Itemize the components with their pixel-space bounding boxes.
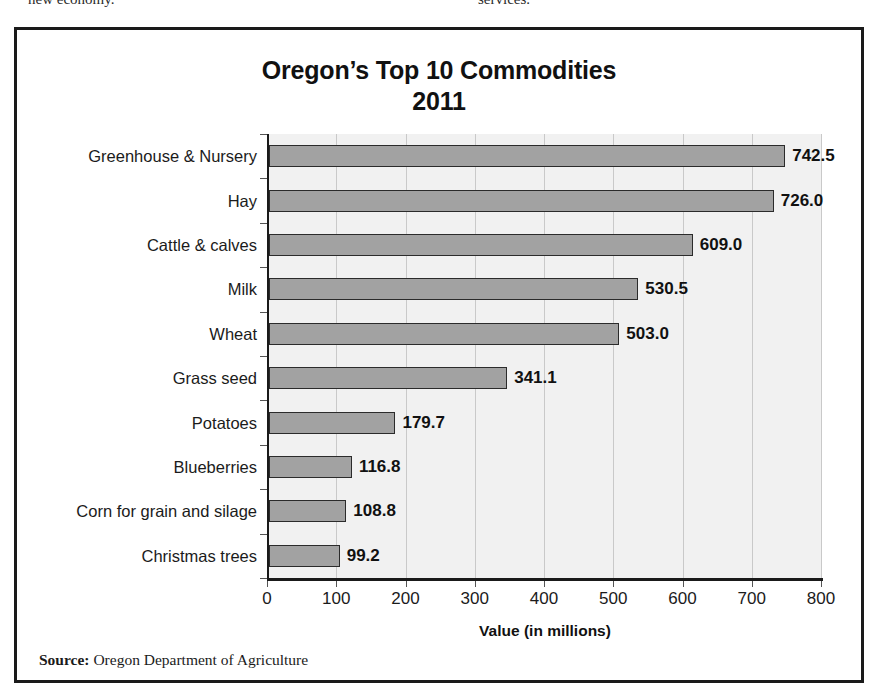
page-text-left-fragment: new economy. [28,0,115,8]
bar-value-label: 179.7 [402,413,445,433]
bar-value-label: 503.0 [626,324,669,344]
x-tick-label-600: 600 [668,589,696,609]
x-axis-line [267,578,823,581]
x-axis-title: Value (in millions) [267,622,823,640]
x-tick-800 [821,581,822,587]
x-tick-100 [336,581,337,587]
bar-row[interactable]: 108.8 [269,489,396,533]
category-label: Blueberries [174,458,257,477]
x-tick-label-700: 700 [738,589,766,609]
x-tick-label-200: 200 [391,589,419,609]
y-tick-5 [260,356,267,357]
bar-value-label: 116.8 [359,457,401,477]
category-label: Christmas trees [141,546,257,565]
bar-value-label: 108.8 [353,501,396,521]
bar[interactable] [269,234,693,256]
y-tick-6 [260,400,267,401]
bar[interactable] [269,545,340,567]
y-tick-0 [260,134,267,135]
x-tick-700 [752,581,753,587]
x-tick-label-400: 400 [530,589,558,609]
x-tick-400 [544,581,545,587]
bar-value-label: 742.5 [792,146,835,166]
x-tick-500 [613,581,614,587]
y-tick-8 [260,489,267,490]
y-tick-9 [260,534,267,535]
category-label: Wheat [209,324,257,343]
bar-row[interactable]: 341.1 [269,356,557,400]
bar-value-label: 530.5 [645,279,688,299]
category-label: Hay [228,191,257,210]
y-tick-7 [260,445,267,446]
x-tick-label-0: 0 [262,589,271,609]
bar-row[interactable]: 179.7 [269,400,445,444]
bar[interactable] [269,367,507,389]
bar-value-label: 726.0 [781,191,824,211]
bar[interactable] [269,278,638,300]
bar-row[interactable]: 726.0 [269,178,823,222]
x-tick-0 [267,581,268,587]
bar-value-label: 341.1 [514,368,557,388]
bar[interactable] [269,323,619,345]
chart-title-line-1: Oregon’s Top 10 Commodities [262,56,616,84]
x-tick-300 [475,581,476,587]
bar-row[interactable]: 99.2 [269,534,380,578]
bar[interactable] [269,456,352,478]
x-tick-600 [683,581,684,587]
category-label: Grass seed [173,369,257,388]
x-tick-label-300: 300 [461,589,489,609]
bar[interactable] [269,500,346,522]
source-line: Source: Oregon Department of Agriculture [39,651,308,669]
bar-value-label: 609.0 [700,235,743,255]
category-label: Cattle & calves [147,236,257,255]
bar-row[interactable]: 742.5 [269,134,835,178]
chart-title: Oregon’s Top 10 Commodities 2011 [17,55,861,116]
bar-row[interactable]: 116.8 [269,445,400,489]
x-tick-label-800: 800 [807,589,835,609]
bar[interactable] [269,145,785,167]
source-text: Oregon Department of Agriculture [93,651,308,668]
category-label: Potatoes [192,413,257,432]
x-tick-label-100: 100 [322,589,350,609]
bar-row[interactable]: 503.0 [269,312,669,356]
y-tick-10 [260,578,267,579]
category-label: Greenhouse & Nursery [88,147,257,166]
bar-value-label: 99.2 [347,546,380,566]
page-text-right-fragment: services. [478,0,530,8]
y-tick-3 [260,267,267,268]
source-label: Source: [39,651,90,668]
x-tick-label-500: 500 [599,589,627,609]
y-tick-4 [260,312,267,313]
bar-row[interactable]: 530.5 [269,267,688,311]
chart-title-line-2: 2011 [17,86,861,117]
bar-row[interactable]: 609.0 [269,223,742,267]
bar[interactable] [269,412,395,434]
x-tick-200 [406,581,407,587]
bar[interactable] [269,190,774,212]
y-tick-2 [260,223,267,224]
category-label: Milk [228,280,257,299]
category-label: Corn for grain and silage [76,502,257,521]
y-tick-1 [260,178,267,179]
figure-frame: Oregon’s Top 10 Commodities 2011 742.572… [14,27,864,683]
